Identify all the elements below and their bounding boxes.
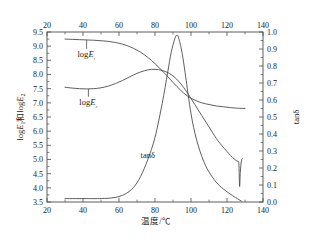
- svg-text:8.5: 8.5: [33, 56, 43, 65]
- annotation-label-1: logE₂: [79, 97, 97, 108]
- annotation-label-0: logE₁: [78, 49, 96, 60]
- svg-text:20: 20: [43, 21, 51, 30]
- svg-text:4.0: 4.0: [33, 184, 43, 193]
- svg-text:6.5: 6.5: [33, 113, 43, 122]
- svg-text:20: 20: [43, 206, 51, 215]
- svg-text:100: 100: [185, 206, 197, 215]
- svg-text:60: 60: [115, 206, 123, 215]
- curve-tan-delta: [65, 35, 241, 201]
- annotation-label-2: tanδ: [141, 150, 155, 160]
- svg-text:40: 40: [79, 206, 87, 215]
- svg-text:1.0: 1.0: [267, 28, 277, 37]
- svg-text:7.5: 7.5: [33, 85, 43, 94]
- svg-text:7.0: 7.0: [33, 99, 43, 108]
- figure-container: 20204040606080801001001201201401403.54.0…: [0, 0, 313, 240]
- svg-text:0.8: 0.8: [267, 62, 277, 71]
- chart-canvas: 20204040606080801001001201201401403.54.0…: [0, 0, 313, 240]
- y2-axis-title: tanδ: [291, 110, 301, 124]
- svg-text:120: 120: [221, 206, 233, 215]
- svg-text:5.5: 5.5: [33, 141, 43, 150]
- svg-text:100: 100: [185, 21, 197, 30]
- y-axis-title: logE1和logE2: [15, 93, 26, 140]
- svg-text:0.2: 0.2: [267, 164, 277, 173]
- svg-text:40: 40: [79, 21, 87, 30]
- svg-text:140: 140: [257, 206, 269, 215]
- svg-text:0.4: 0.4: [267, 130, 277, 139]
- svg-text:0.0: 0.0: [267, 198, 277, 207]
- svg-text:6.0: 6.0: [33, 127, 43, 136]
- svg-text:80: 80: [151, 21, 159, 30]
- svg-text:3.5: 3.5: [33, 198, 43, 207]
- svg-text:9.5: 9.5: [33, 28, 43, 37]
- svg-text:4.5: 4.5: [33, 170, 43, 179]
- svg-text:0.9: 0.9: [267, 45, 277, 54]
- svg-text:0.1: 0.1: [267, 181, 277, 190]
- svg-text:8.0: 8.0: [33, 70, 43, 79]
- svg-text:0.5: 0.5: [267, 113, 277, 122]
- svg-text:9.0: 9.0: [33, 42, 43, 51]
- svg-text:60: 60: [115, 21, 123, 30]
- svg-text:0.3: 0.3: [267, 147, 277, 156]
- axis-tick-labels: 20204040606080801001001201201401403.54.0…: [33, 21, 277, 215]
- svg-text:80: 80: [151, 206, 159, 215]
- curve-log-e2: [65, 69, 242, 186]
- curve-annotations: logE₁logE₂tanδ: [78, 40, 155, 160]
- x-axis-title: 温度/℃: [141, 216, 170, 226]
- svg-text:0.7: 0.7: [267, 79, 277, 88]
- svg-text:0.6: 0.6: [267, 96, 277, 105]
- svg-text:120: 120: [221, 21, 233, 30]
- svg-text:5.0: 5.0: [33, 155, 43, 164]
